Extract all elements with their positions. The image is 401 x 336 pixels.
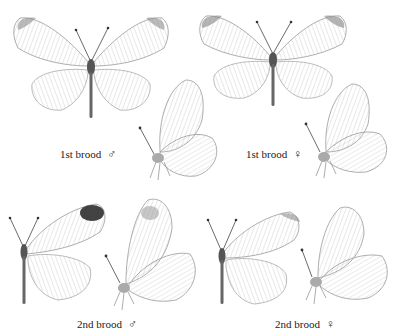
butterfly-1st-brood-female-underside <box>305 84 387 178</box>
illustrations <box>0 0 401 336</box>
caption-1st-brood-male: 1st brood♂ <box>60 147 116 162</box>
male-symbol-icon: ♂ <box>107 147 116 161</box>
butterfly-1st-brood-male-upperside <box>14 18 169 118</box>
caption-text: 1st brood <box>246 148 287 160</box>
butterfly-1st-brood-male-underside <box>139 80 217 180</box>
butterfly-2nd-brood-female-underside <box>301 207 388 304</box>
caption-2nd-brood-female: 2nd brood♀ <box>275 317 335 332</box>
male-symbol-icon: ♂ <box>128 317 137 331</box>
caption-2nd-brood-male: 2nd brood♂ <box>77 317 137 332</box>
butterfly-2nd-brood-female-upperside <box>207 212 300 304</box>
caption-text: 2nd brood <box>275 318 320 330</box>
butterfly-plate: 1st brood♂ 1st brood♀ 2nd brood♂ 2nd bro… <box>0 0 401 336</box>
female-symbol-icon: ♀ <box>326 317 335 331</box>
butterfly-2nd-brood-male-underside <box>105 199 196 310</box>
caption-text: 1st brood <box>60 148 101 160</box>
female-symbol-icon: ♀ <box>293 147 302 161</box>
caption-text: 2nd brood <box>77 318 122 330</box>
caption-1st-brood-female: 1st brood♀ <box>246 147 302 162</box>
butterfly-2nd-brood-male-upperside <box>9 204 105 304</box>
butterfly-1st-brood-female-upperside <box>200 16 347 106</box>
